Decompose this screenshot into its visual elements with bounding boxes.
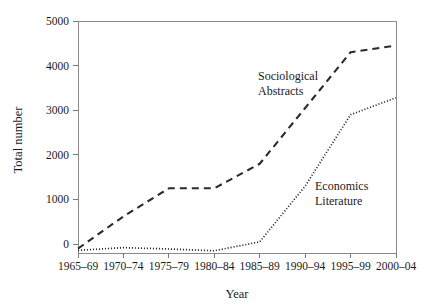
x-tick-label: 1990–94 (285, 260, 326, 272)
series-label-sociological-abstracts-line2: Abstracts (258, 84, 304, 98)
y-axis-ticks (73, 21, 78, 244)
x-tick-label: 1985–89 (240, 260, 281, 272)
x-tick-label: 2000–04 (376, 260, 417, 272)
series-annotations: Sociological Abstracts Economics Literat… (258, 69, 369, 208)
x-axis-tick-labels: 1965–691970–741975–791980–841985–891990–… (58, 260, 417, 272)
line-chart-svg: 010002000300040005000 1965–691970–741975… (0, 0, 437, 306)
series-label-economics-literature-line2: Literature (315, 194, 362, 208)
x-tick-label: 1975–79 (149, 260, 190, 272)
y-axis-title: Total number (11, 106, 25, 174)
plot-frame (78, 21, 396, 253)
plot-frame-border (78, 21, 396, 253)
y-tick-label: 3000 (46, 104, 69, 116)
x-tick-label: 1965–69 (58, 260, 99, 272)
series-group (78, 46, 396, 251)
x-tick-label: 1995–99 (330, 260, 371, 272)
y-tick-label: 1000 (46, 193, 69, 205)
series-line-sociological-abstracts (78, 46, 396, 249)
y-axis-tick-labels: 010002000300040005000 (46, 15, 69, 250)
y-tick-label: 0 (63, 238, 69, 250)
series-label-sociological-abstracts-line1: Sociological (258, 69, 319, 83)
chart-figure: 010002000300040005000 1965–691970–741975… (0, 0, 437, 306)
x-tick-label: 1970–74 (103, 260, 144, 272)
series-line-economics-literature (78, 98, 396, 251)
x-tick-label: 1980–84 (194, 260, 235, 272)
x-axis-ticks (78, 253, 396, 258)
y-tick-label: 5000 (46, 15, 69, 27)
y-tick-label: 4000 (46, 60, 69, 72)
x-axis-title: Year (225, 287, 249, 301)
series-label-economics-literature-line1: Economics (315, 179, 369, 193)
y-tick-label: 2000 (46, 149, 69, 161)
